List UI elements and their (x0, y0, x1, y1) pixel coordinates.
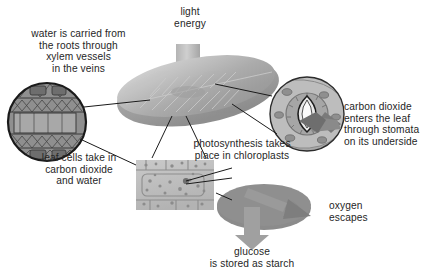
diagram-labels: light energy water is carried from the r… (0, 0, 430, 277)
label-carbon-dioxide: carbon dioxide enters the leaf through s… (344, 101, 430, 147)
label-leaf-cells: leaf cells take in carbon dioxide and wa… (20, 152, 138, 187)
photosynthesis-diagram: light energy water is carried from the r… (0, 0, 430, 277)
label-oxygen-escapes: oxygen escapes (329, 200, 399, 223)
label-photosynthesis: photosynthesis takes place in chloroplas… (176, 138, 308, 161)
label-light-energy: light energy (150, 6, 230, 29)
label-glucose: glucose is stored as starch (182, 246, 322, 269)
label-water-xylem: water is carried from the roots through … (6, 28, 151, 74)
